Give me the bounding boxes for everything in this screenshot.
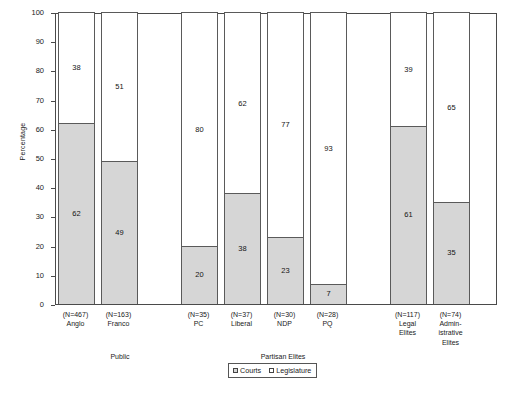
bar-franco[interactable]: 5149 (101, 12, 138, 304)
legend-swatch-legislature (269, 368, 274, 373)
bar-segment-legislature[interactable]: 62 (225, 13, 260, 194)
x-label-name-line2: istrative (416, 328, 486, 337)
bar-value-courts: 61 (404, 211, 412, 219)
bar-value-legislature: 77 (281, 121, 289, 129)
x-label-name-line3: Elites (416, 338, 486, 347)
x-label-franco: (N=163)Franco (84, 310, 154, 328)
y-tick-label: 30 (16, 213, 44, 221)
bar-value-courts: 20 (195, 271, 203, 279)
bar-segment-legislature[interactable]: 65 (434, 13, 469, 203)
bar-value-legislature: 39 (404, 66, 412, 74)
bar-pc[interactable]: 8020 (181, 12, 218, 304)
bar-anglo[interactable]: 3862 (58, 12, 95, 304)
y-tick-label: 0 (16, 301, 44, 309)
bar-liberal[interactable]: 6238 (224, 12, 261, 304)
bar-value-legislature: 93 (324, 145, 332, 153)
bar-administrative-elites[interactable]: 6535 (433, 12, 470, 304)
y-tick-label: 100 (16, 9, 44, 17)
bar-value-legislature: 65 (447, 104, 455, 112)
bar-segment-legislature[interactable]: 39 (391, 13, 426, 127)
legend-item-legislature[interactable]: Legislature (269, 366, 311, 375)
legend-swatch-courts (233, 368, 238, 373)
bar-segment-legislature[interactable]: 80 (182, 13, 217, 247)
x-label-name-line1: Admin- (416, 319, 486, 328)
bar-legal-elites[interactable]: 3961 (390, 12, 427, 304)
bar-segment-courts[interactable]: 23 (268, 237, 303, 304)
bar-value-courts: 35 (447, 249, 455, 257)
bar-segment-courts[interactable]: 7 (311, 284, 346, 304)
chart-legend: CourtsLegislature (228, 363, 317, 378)
y-tick-mark (51, 305, 55, 306)
group-label-public: Public (70, 352, 170, 361)
x-label-n: (N=28) (293, 310, 363, 319)
bar-segment-legislature[interactable]: 77 (268, 13, 303, 238)
y-tick-label: 60 (16, 126, 44, 134)
bar-value-legislature: 38 (72, 64, 80, 72)
y-tick-label: 50 (16, 155, 44, 163)
x-label-n: (N=163) (84, 310, 154, 319)
x-label-administrative-elites: (N=74)Admin-istrativeElites (416, 310, 486, 347)
bar-value-legislature: 80 (195, 126, 203, 134)
bar-value-legislature: 51 (115, 83, 123, 91)
bar-segment-courts[interactable]: 62 (59, 123, 94, 304)
legend-label: Legislature (276, 366, 311, 375)
legend-label: Courts (240, 366, 261, 375)
bar-value-courts: 7 (326, 290, 330, 298)
y-tick-label: 80 (16, 67, 44, 75)
legend-item-courts[interactable]: Courts (233, 366, 261, 375)
bar-segment-courts[interactable]: 61 (391, 126, 426, 304)
bar-segment-legislature[interactable]: 51 (102, 13, 137, 162)
bar-value-courts: 49 (115, 229, 123, 237)
bar-segment-courts[interactable]: 49 (102, 161, 137, 304)
bar-segment-legislature[interactable]: 93 (311, 13, 346, 285)
y-tick-label: 20 (16, 243, 44, 251)
y-tick-label: 10 (16, 272, 44, 280)
y-tick-label: 70 (16, 97, 44, 105)
bar-segment-courts[interactable]: 38 (225, 193, 260, 304)
x-label-name-line1: PQ (293, 319, 363, 328)
y-tick-label: 90 (16, 38, 44, 46)
bar-value-legislature: 62 (238, 100, 246, 108)
y-axis-ticks: 1009080706050403020100 (0, 0, 55, 397)
x-label-pq: (N=28)PQ (293, 310, 363, 328)
bar-segment-courts[interactable]: 20 (182, 246, 217, 304)
bar-pq[interactable]: 937 (310, 12, 347, 304)
group-label-partisan-elites: Partisan Elites (233, 352, 333, 361)
bar-value-courts: 23 (281, 267, 289, 275)
bar-segment-legislature[interactable]: 38 (59, 13, 94, 124)
y-tick-label: 40 (16, 184, 44, 192)
bar-value-courts: 38 (238, 245, 246, 253)
stacked-bar-chart: Percentage 1009080706050403020100 386251… (0, 0, 508, 397)
bar-value-courts: 62 (72, 210, 80, 218)
bar-ndp[interactable]: 7723 (267, 12, 304, 304)
plot-area: 3862514980206238772393739616535 (55, 13, 497, 305)
bar-segment-courts[interactable]: 35 (434, 202, 469, 304)
x-label-name-line1: Franco (84, 319, 154, 328)
x-label-n: (N=74) (416, 310, 486, 319)
